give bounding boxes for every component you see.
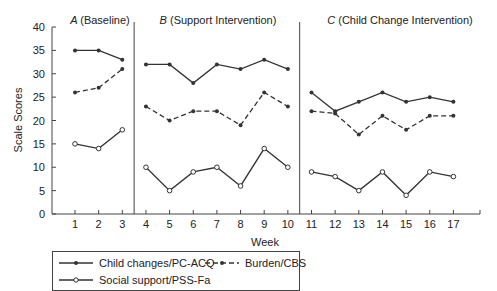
legend-label: Burden/CBS xyxy=(245,257,306,269)
data-point xyxy=(428,114,432,118)
legend-label: Child changes/PC-ACQ xyxy=(99,257,215,269)
x-tick-label: 7 xyxy=(214,218,220,230)
data-point xyxy=(215,62,219,66)
x-tick-label: 17 xyxy=(447,218,459,230)
data-point xyxy=(97,48,101,52)
x-tick-label: 16 xyxy=(424,218,436,230)
data-point xyxy=(191,109,195,113)
x-tick-label: 4 xyxy=(143,218,149,230)
y-axis-label: Scale Scores xyxy=(12,87,24,152)
phase-label: A (Baseline) xyxy=(69,14,130,26)
data-point xyxy=(168,119,172,123)
series-lines xyxy=(73,48,456,197)
data-point xyxy=(73,90,77,94)
y-tick-label: 30 xyxy=(33,68,45,80)
data-point xyxy=(191,170,196,175)
y-tick-label: 10 xyxy=(33,161,45,173)
data-point xyxy=(262,146,267,151)
data-point xyxy=(167,188,172,193)
y-tick-label: 5 xyxy=(39,185,45,197)
data-point xyxy=(357,188,362,193)
data-point xyxy=(262,90,266,94)
solid-line-filled-dot-icon xyxy=(59,258,93,268)
y-tick-label: 20 xyxy=(33,115,45,127)
phase-dividers xyxy=(134,22,300,214)
data-point xyxy=(451,174,456,179)
x-tick-label: 8 xyxy=(237,218,243,230)
data-point xyxy=(120,67,124,71)
data-point xyxy=(380,170,385,175)
x-tick-label: 9 xyxy=(261,218,267,230)
data-point xyxy=(333,174,338,179)
data-point xyxy=(380,90,384,94)
data-point xyxy=(404,128,408,132)
x-tick-label: 15 xyxy=(400,218,412,230)
y-tick-label: 15 xyxy=(33,138,45,150)
data-point xyxy=(96,146,101,151)
data-point xyxy=(333,111,337,115)
data-point xyxy=(144,165,149,170)
data-point xyxy=(357,133,361,137)
data-point xyxy=(73,142,78,147)
data-point xyxy=(144,62,148,66)
data-point xyxy=(404,100,408,104)
legend: Child changes/PC-ACQ Burden/CBS Social s… xyxy=(52,251,300,291)
x-tick-label: 3 xyxy=(119,218,125,230)
data-point xyxy=(215,109,219,113)
x-tick-label: 5 xyxy=(167,218,173,230)
x-tick-label: 10 xyxy=(282,218,294,230)
phase-label: B (Support Intervention) xyxy=(160,14,277,26)
data-point xyxy=(286,165,291,170)
legend-item-child-changes: Child changes/PC-ACQ xyxy=(59,255,215,271)
data-point xyxy=(120,128,125,133)
solid-line-open-circle-icon xyxy=(59,275,93,285)
data-point xyxy=(239,67,243,71)
x-tick-label: 11 xyxy=(306,218,317,230)
data-point xyxy=(239,123,243,127)
x-tick-label: 6 xyxy=(190,218,196,230)
x-tick-label: 12 xyxy=(329,218,341,230)
phase-label: C (Child Change Intervention) xyxy=(327,14,473,26)
series-child-changes-pc-acq xyxy=(73,48,455,113)
y-tick-label: 35 xyxy=(33,44,45,56)
data-point xyxy=(310,109,314,113)
y-tick-label: 0 xyxy=(39,208,45,220)
dashed-line-filled-dot-icon xyxy=(205,258,239,268)
x-axis-label: Week xyxy=(251,236,279,248)
legend-label: Social support/PSS-Fa xyxy=(99,274,210,286)
data-point xyxy=(144,104,148,108)
data-point xyxy=(238,184,243,189)
data-point xyxy=(262,58,266,62)
x-tick-label: 2 xyxy=(96,218,102,230)
x-tick-label: 1 xyxy=(72,218,78,230)
x-tick-label: 13 xyxy=(353,218,365,230)
x-tick-label: 14 xyxy=(376,218,388,230)
data-point xyxy=(215,165,220,170)
data-point xyxy=(286,67,290,71)
data-point xyxy=(286,104,290,108)
series-burden-cbs xyxy=(73,67,455,136)
data-point xyxy=(168,62,172,66)
data-point xyxy=(451,100,455,104)
data-point xyxy=(451,114,455,118)
data-point xyxy=(357,100,361,104)
data-point xyxy=(427,170,432,175)
series-social-support-pss-fa xyxy=(73,128,456,198)
data-point xyxy=(97,86,101,90)
data-point xyxy=(73,48,77,52)
data-point xyxy=(310,90,314,94)
data-point xyxy=(120,58,124,62)
legend-item-social-support: Social support/PSS-Fa xyxy=(59,272,210,288)
data-point xyxy=(380,114,384,118)
data-point xyxy=(428,95,432,99)
data-point xyxy=(404,193,409,198)
phase-labels: A (Baseline)B (Support Intervention)C (C… xyxy=(69,14,473,26)
y-tick-label: 40 xyxy=(33,21,45,33)
y-tick-label: 25 xyxy=(33,91,45,103)
data-point xyxy=(309,170,314,175)
legend-item-burden: Burden/CBS xyxy=(205,255,306,271)
data-point xyxy=(191,81,195,85)
